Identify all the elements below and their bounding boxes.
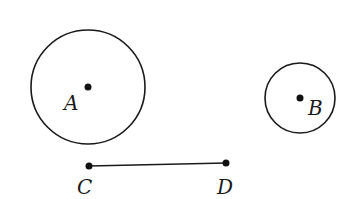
label-d: D [216, 175, 233, 199]
point-a [85, 84, 92, 91]
label-a: A [62, 91, 78, 115]
point-c [86, 163, 93, 170]
label-c: C [77, 175, 92, 199]
point-b [297, 95, 304, 102]
label-b: B [307, 96, 323, 120]
point-d [223, 160, 230, 167]
geometry-diagram: A B C D [0, 0, 358, 199]
segment-cd [89, 163, 226, 166]
